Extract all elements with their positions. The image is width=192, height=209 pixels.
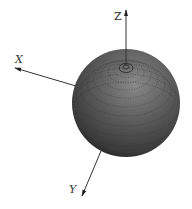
x-axis bbox=[15, 68, 76, 86]
z-axis-label: Z bbox=[114, 10, 122, 23]
y-axis bbox=[82, 151, 101, 196]
sphere-diagram: X Z Y bbox=[0, 0, 192, 209]
x-axis-label: X bbox=[14, 53, 24, 66]
y-axis-label: Y bbox=[69, 183, 78, 196]
